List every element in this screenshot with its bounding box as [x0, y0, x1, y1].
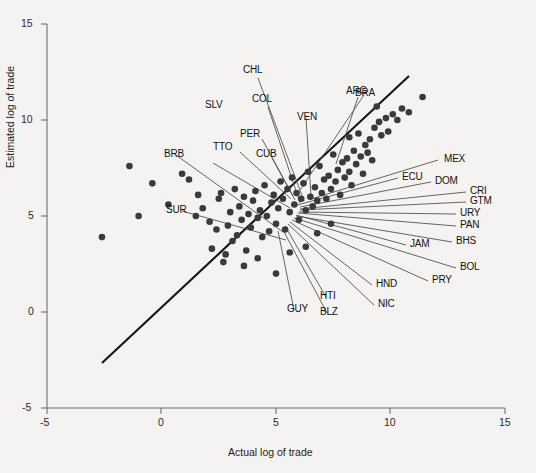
data-point — [126, 163, 133, 170]
y-tick-0: 0 — [28, 305, 34, 317]
data-point — [314, 230, 321, 237]
data-point — [383, 115, 390, 122]
data-point — [344, 155, 351, 162]
data-point — [227, 209, 234, 216]
x-tick-15: 15 — [499, 416, 511, 428]
x-tick-0: 0 — [158, 416, 164, 428]
data-point — [316, 163, 323, 170]
data-point — [238, 217, 245, 224]
data-point — [254, 255, 261, 262]
point-label-cub: CUB — [256, 148, 277, 159]
point-label-bra: BRA — [355, 87, 375, 98]
data-point — [206, 218, 213, 225]
data-point — [193, 213, 200, 220]
y-tick-neg5: -5 — [22, 401, 31, 413]
data-point — [346, 134, 353, 141]
data-point — [236, 203, 243, 210]
data-point — [234, 232, 241, 239]
point-label-jam: JAM — [410, 238, 429, 249]
point-label-bol: BOL — [460, 261, 479, 272]
y-tick-15: 15 — [21, 17, 33, 29]
data-point — [280, 195, 287, 202]
data-point — [245, 211, 252, 218]
data-point — [419, 94, 426, 101]
data-point — [259, 234, 266, 241]
data-point — [261, 182, 268, 189]
data-point — [325, 172, 332, 179]
data-point — [286, 249, 293, 256]
data-point — [241, 263, 248, 270]
point-label-ecu: ECU — [402, 171, 423, 182]
data-point — [300, 180, 307, 187]
data-point — [328, 186, 335, 193]
point-label-col: COL — [252, 93, 272, 104]
data-point — [215, 195, 222, 202]
point-label-hnd: HND — [376, 278, 397, 289]
point-label-blz: BLZ — [320, 306, 338, 317]
data-point — [296, 217, 303, 224]
data-point — [378, 132, 385, 139]
data-point — [337, 192, 344, 199]
data-point — [351, 147, 358, 154]
data-point — [186, 176, 193, 183]
data-point — [312, 184, 319, 191]
data-point — [252, 188, 259, 195]
y-tick-5: 5 — [28, 209, 34, 221]
data-point — [353, 161, 360, 168]
data-point — [367, 136, 374, 143]
data-point — [199, 205, 206, 212]
data-point — [270, 192, 277, 199]
data-point — [298, 195, 305, 202]
data-point — [220, 259, 227, 266]
data-point — [213, 226, 220, 233]
data-point — [328, 220, 335, 227]
point-label-ury: URY — [460, 207, 480, 218]
point-label-ven: VEN — [297, 111, 317, 122]
data-point — [257, 207, 264, 214]
data-point — [399, 105, 406, 112]
data-point — [273, 270, 280, 277]
data-point — [286, 209, 293, 216]
data-point — [376, 119, 383, 126]
point-label-pry: PRY — [432, 274, 452, 285]
data-point — [222, 251, 229, 258]
point-label-gtm: GTM — [470, 195, 492, 206]
data-point — [305, 169, 312, 176]
data-point — [218, 190, 225, 197]
data-point — [293, 190, 300, 197]
data-point — [268, 199, 275, 206]
scatter-plot-figure: 15 10 5 0 -5 -5 0 5 10 15 Estimated log … — [0, 0, 536, 473]
point-label-slv: SLV — [205, 99, 223, 110]
data-point — [195, 192, 202, 199]
data-point — [309, 203, 316, 210]
point-label-sur: SUR — [166, 204, 187, 215]
data-point — [394, 117, 401, 124]
x-tick-10: 10 — [384, 416, 396, 428]
data-point — [275, 205, 282, 212]
data-point — [357, 153, 364, 160]
data-point — [179, 170, 186, 177]
point-label-pan: PAN — [460, 219, 479, 230]
data-point — [264, 213, 271, 220]
point-label-tto: TTO — [213, 141, 232, 152]
data-point — [314, 197, 321, 204]
data-point — [302, 207, 309, 214]
point-label-nic: NIC — [378, 298, 395, 309]
data-point — [346, 169, 353, 176]
data-points — [99, 94, 426, 277]
x-tick-neg5: -5 — [40, 416, 49, 428]
data-point — [209, 245, 216, 252]
data-point — [241, 194, 248, 201]
point-label-hti: HTI — [320, 290, 336, 301]
data-point — [406, 109, 413, 116]
point-label-brb: BRB — [164, 148, 184, 159]
data-point — [284, 186, 291, 193]
data-point — [364, 149, 371, 156]
x-tick-5: 5 — [273, 416, 279, 428]
data-point — [389, 111, 396, 118]
data-point — [307, 194, 314, 201]
point-label-per: PER — [240, 128, 260, 139]
y-tick-10: 10 — [21, 113, 33, 125]
data-point — [330, 151, 337, 158]
point-label-bhs: BHS — [456, 235, 476, 246]
